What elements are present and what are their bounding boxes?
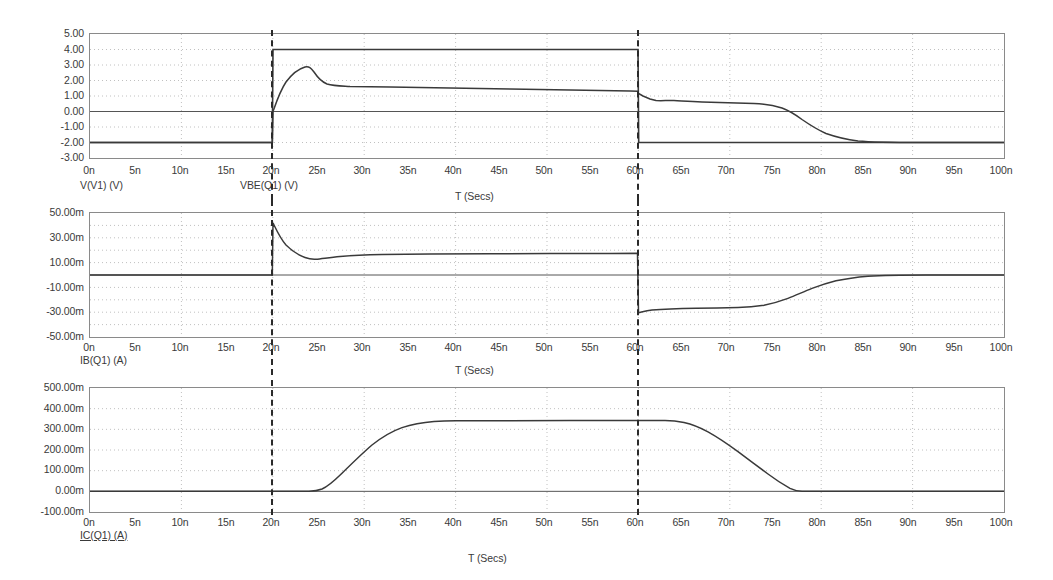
trace-label-ic-q1[interactable]: IC(Q1) (A): [80, 530, 127, 541]
ytick-ic-500m: 500.00m: [14, 382, 84, 392]
trace-label-v-v1[interactable]: V(V1) (V): [80, 180, 123, 191]
ytick-ib-30m: 30.00m: [22, 232, 84, 242]
ytick-voltage-5: 5.00: [38, 28, 84, 38]
xtick-ib-1: 5n: [117, 342, 153, 352]
xtick-ib-16: 80n: [799, 342, 835, 352]
ytick-ib-neg30m: -30.00m: [22, 306, 84, 316]
xtick-ic-16: 80n: [799, 517, 835, 527]
ytick-voltage-neg2: -2.00: [38, 137, 84, 147]
ytick-ib-neg50m: -50.00m: [22, 331, 84, 341]
xtick-ic-1: 5n: [117, 517, 153, 527]
ytick-voltage-neg3: -3.00: [38, 152, 84, 162]
ytick-voltage-3: 3.00: [38, 59, 84, 69]
grid-voltage: [90, 34, 1004, 158]
axis-title-collector-current: T (Secs): [468, 552, 507, 564]
xtick-voltage-9: 45n: [481, 165, 517, 175]
xtick-ic-11: 55n: [572, 517, 608, 527]
probe-waveform-window: { "window": { "title": "Probe Waveform V…: [0, 0, 1053, 580]
xtick-voltage-17: 85n: [845, 165, 881, 175]
xtick-voltage-15: 75n: [754, 165, 790, 175]
xtick-ic-4: 20n: [253, 517, 289, 527]
ytick-ic-200m: 200.00m: [14, 444, 84, 454]
xtick-ic-15: 75n: [754, 517, 790, 527]
ytick-ic-100m: 100.00m: [14, 464, 84, 474]
xtick-voltage-0: 0n: [71, 165, 107, 175]
xtick-voltage-19: 95n: [936, 165, 972, 175]
trace-label-vbe-q1[interactable]: VBE(Q1) (V): [240, 180, 298, 191]
plot-area-voltage[interactable]: [89, 33, 1005, 159]
cursor-line-20n-panel2[interactable]: [271, 200, 273, 375]
xtick-ic-14: 70n: [708, 517, 744, 527]
xtick-ib-8: 40n: [435, 342, 471, 352]
xtick-ib-19: 95n: [936, 342, 972, 352]
cursor-line-60n-panel3[interactable]: [637, 380, 639, 515]
waveform-canvas-voltage: [90, 34, 1004, 158]
xtick-voltage-16: 80n: [799, 165, 835, 175]
ytick-ic-400m: 400.00m: [14, 403, 84, 413]
xtick-ic-0: 0n: [71, 517, 107, 527]
xtick-voltage-14: 70n: [708, 165, 744, 175]
xtick-ic-13: 65n: [663, 517, 699, 527]
xtick-voltage-10: 50n: [526, 165, 562, 175]
xtick-ib-6: 30n: [344, 342, 380, 352]
xtick-ib-9: 45n: [481, 342, 517, 352]
grid-collector-current: [90, 388, 1004, 512]
xtick-ib-12: 60n: [617, 342, 653, 352]
xtick-voltage-12: 60n: [617, 165, 653, 175]
ytick-ib-10m: 10.00m: [22, 257, 84, 267]
xtick-ib-5: 25n: [299, 342, 335, 352]
xtick-ib-15: 75n: [754, 342, 790, 352]
panel-collector-current: 500.00m 400.00m 300.00m 200.00m 100.00m …: [0, 375, 1053, 580]
xtick-voltage-3: 15n: [208, 165, 244, 175]
xtick-ic-5: 25n: [299, 517, 335, 527]
xtick-voltage-5: 25n: [299, 165, 335, 175]
cursor-line-20n-panel3[interactable]: [271, 380, 273, 515]
xtick-ic-20: 100n: [981, 517, 1021, 527]
xtick-ib-2: 10n: [162, 342, 198, 352]
ytick-ic-neg100m: -100.00m: [14, 506, 84, 516]
xtick-ic-2: 10n: [162, 517, 198, 527]
xtick-ic-18: 90n: [890, 517, 926, 527]
xtick-ib-11: 55n: [572, 342, 608, 352]
xtick-voltage-20: 100n: [981, 165, 1021, 175]
plot-area-collector-current[interactable]: [89, 387, 1005, 513]
xtick-ib-17: 85n: [845, 342, 881, 352]
xtick-ib-20: 100n: [981, 342, 1021, 352]
xtick-voltage-2: 10n: [162, 165, 198, 175]
ytick-ib-50m: 50.00m: [22, 207, 84, 217]
xtick-ic-7: 35n: [390, 517, 426, 527]
ytick-voltage-4: 4.00: [38, 44, 84, 54]
xtick-ib-7: 35n: [390, 342, 426, 352]
xtick-voltage-13: 65n: [663, 165, 699, 175]
panel-voltage: 5.00 4.00 3.00 2.00 1.00 0.00 -1.00 -2.0…: [0, 0, 1053, 200]
xtick-ic-8: 40n: [435, 517, 471, 527]
xtick-ib-13: 65n: [663, 342, 699, 352]
xtick-voltage-11: 55n: [572, 165, 608, 175]
panel-base-current: 50.00m 30.00m 10.00m -10.00m -30.00m -50…: [0, 200, 1053, 375]
xtick-ic-9: 45n: [481, 517, 517, 527]
ytick-voltage-neg1: -1.00: [38, 121, 84, 131]
xtick-ic-10: 50n: [526, 517, 562, 527]
ytick-voltage-1: 1.00: [38, 90, 84, 100]
xtick-voltage-7: 35n: [390, 165, 426, 175]
ytick-ib-neg10m: -10.00m: [22, 282, 84, 292]
cursor-line-60n[interactable]: [637, 30, 639, 200]
xtick-ib-0: 0n: [71, 342, 107, 352]
ytick-voltage-0: 0.00: [38, 106, 84, 116]
plot-area-base-current[interactable]: [89, 212, 1005, 338]
xtick-ib-10: 50n: [526, 342, 562, 352]
ytick-ic-300m: 300.00m: [14, 423, 84, 433]
ytick-voltage-2: 2.00: [38, 75, 84, 85]
xtick-ic-12: 60n: [617, 517, 653, 527]
waveform-canvas-collector-current: [90, 388, 1004, 512]
xtick-ic-3: 15n: [208, 517, 244, 527]
xtick-voltage-6: 30n: [344, 165, 380, 175]
xtick-voltage-18: 90n: [890, 165, 926, 175]
ytick-ic-0m: 0.00m: [14, 485, 84, 495]
cursor-line-20n[interactable]: [271, 30, 273, 200]
xtick-voltage-1: 5n: [117, 165, 153, 175]
trace-label-ib-q1[interactable]: IB(Q1) (A): [80, 355, 127, 366]
xtick-ic-17: 85n: [845, 517, 881, 527]
xtick-ic-19: 95n: [936, 517, 972, 527]
cursor-line-60n-panel2[interactable]: [637, 200, 639, 375]
